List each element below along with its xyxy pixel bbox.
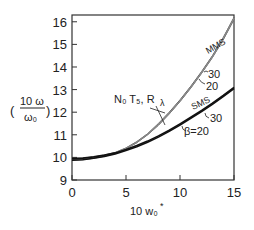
x-axis: 051015 [68, 175, 241, 200]
mms-20-label: 20 [206, 80, 218, 92]
y-tick-label: 15 [53, 37, 67, 52]
y-tick-label: 12 [53, 105, 67, 120]
annotations: MMS 30 20 N₀ T₅, R λ SMS 30 β=20 [114, 37, 227, 137]
x-tick-label: 15 [227, 185, 241, 200]
sms-label: SMS [190, 95, 212, 112]
y-tick-label: 14 [53, 60, 67, 75]
x-label-sup: * [160, 201, 164, 211]
y-tick-label: 10 [53, 150, 67, 165]
leader-mms-20 [199, 79, 205, 84]
x-tick-label: 0 [68, 185, 75, 200]
x-tick-label: 5 [122, 185, 129, 200]
y-label-numerator: 10 ω [20, 95, 44, 107]
x-label-text: 10 w₀ [130, 205, 158, 217]
y-axis-label: ( 10 ω ω₀ ) [10, 95, 50, 123]
numerical-label: N₀ T₅, R [114, 93, 155, 105]
x-axis-label: 10 w₀ * [130, 201, 164, 217]
mms-30-label: 30 [208, 68, 220, 80]
y-tick-label: 16 [53, 15, 67, 30]
y-tick-label: 11 [54, 128, 68, 143]
numerical-sub: λ [160, 98, 165, 108]
left-paren: ( [10, 103, 15, 118]
y-axis: 910111213141516 [53, 15, 77, 188]
right-paren: ) [46, 103, 50, 118]
y-tick-label: 13 [53, 83, 67, 98]
sms-beta20-label: β=20 [184, 125, 209, 137]
x-tick-label: 10 [173, 185, 187, 200]
y-tick-label: 9 [60, 173, 67, 188]
y-label-denominator: ω₀ [24, 111, 37, 123]
chart: 910111213141516 051015 ( 10 ω ω₀ ) 10 w₀… [0, 0, 254, 230]
leader-sms-30 [205, 113, 209, 118]
numerical-leaders [150, 106, 165, 125]
sms-30-label: 30 [210, 112, 222, 124]
